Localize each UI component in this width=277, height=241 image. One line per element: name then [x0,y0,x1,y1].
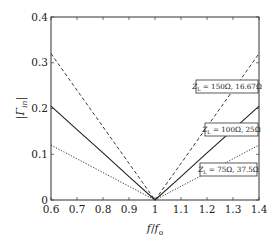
y-tick-label: 0.4 [31,11,48,23]
y-tick-label: 0 [41,194,48,206]
annotation-text: ZL = 75Ω, 37.5Ω [197,165,259,175]
annotation-text: ZL = 150Ω, 16.67Ω [191,82,262,92]
x-axis-label: f/fo [146,222,164,237]
x-tick-label: 0.8 [95,203,112,215]
x-tick-label: 1.1 [173,203,190,215]
x-tick-label: 1.2 [199,203,216,215]
x-tick-label: 0.7 [69,203,86,215]
reflection-coefficient-chart: 0.60.70.80.911.11.21.31.4 00.10.20.30.4 … [0,0,277,241]
y-tick-label: 0.3 [31,56,48,68]
annotation-box-1: ZL = 150Ω, 16.67Ω [191,80,262,93]
y-tick-label: 0.1 [31,148,48,160]
y-tick-label: 0.2 [31,102,48,114]
series-annotations: ZL = 150Ω, 16.67ΩZL = 100Ω, 25ΩZL = 75Ω,… [191,80,262,176]
y-tick-labels: 00.10.20.30.4 [31,11,48,206]
x-tick-label: 1.4 [251,203,268,215]
x-tick-label: 1 [152,203,159,215]
y-axis-label-main: |Γ [14,107,28,119]
series-line-solid [51,106,259,200]
x-tick-label: 1.3 [225,203,242,215]
x-tick-label: 0.9 [121,203,138,215]
y-axis-label: |Γin| [14,97,29,119]
y-axis-label-close: | [14,97,28,101]
annotation-text: ZL = 100Ω, 25Ω [201,125,260,135]
x-tick-labels: 0.60.70.80.911.11.21.31.4 [43,203,268,215]
annotation-box-2: ZL = 100Ω, 25Ω [201,123,260,136]
x-axis-label-sub: o [159,228,164,237]
annotation-box-3: ZL = 75Ω, 37.5Ω [197,163,259,176]
